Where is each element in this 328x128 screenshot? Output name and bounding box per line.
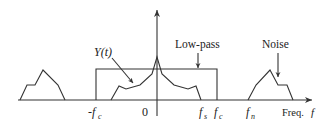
signal-pointer-arrow xyxy=(112,58,133,83)
origin-label: 0 xyxy=(142,105,148,119)
svg-text:-f: -f xyxy=(88,105,97,119)
spectrum-diagram: Y(t) Low-pass Noise -f c 0 f s f c f n F… xyxy=(0,0,328,128)
signal-spectrum xyxy=(111,57,201,100)
svg-text:Freq.: Freq. xyxy=(282,107,304,118)
noise-spectrum xyxy=(248,70,293,100)
svg-text:s: s xyxy=(204,112,207,121)
neg-cutoff-label: -f c xyxy=(88,105,102,121)
svg-text:f: f xyxy=(311,106,316,118)
noise-label: Noise xyxy=(262,38,289,50)
axis-label: Freq. f xyxy=(282,106,316,118)
svg-text:c: c xyxy=(98,112,102,121)
svg-text:c: c xyxy=(219,112,223,121)
svg-text:n: n xyxy=(251,112,255,121)
signal-label: Y(t) xyxy=(94,45,112,59)
noise-freq-label: f n xyxy=(246,105,255,121)
cutoff-label: f c xyxy=(214,105,223,121)
signal-freq-label: f s xyxy=(199,105,207,121)
filter-label: Low-pass xyxy=(175,38,220,51)
negative-noise-spectrum xyxy=(20,70,65,100)
